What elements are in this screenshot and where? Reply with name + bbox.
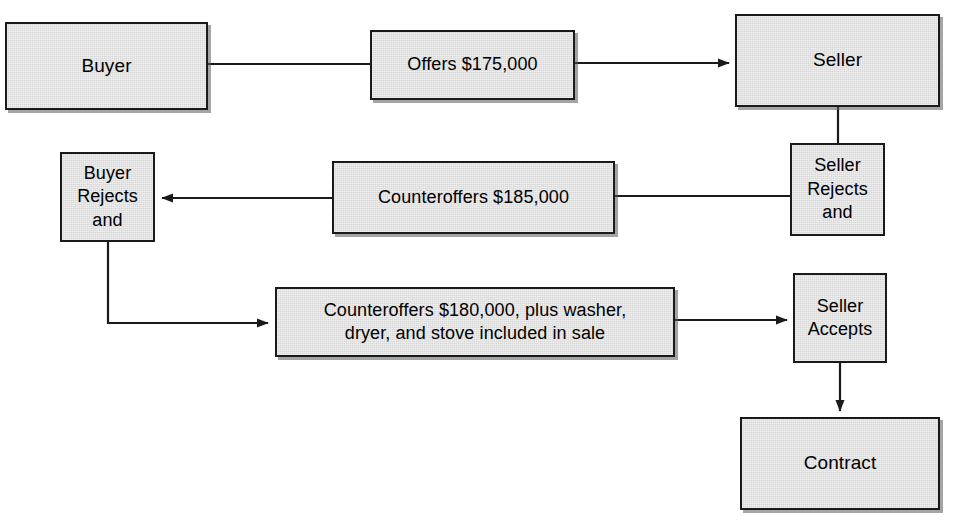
- node-seller-rejects-label: Seller Rejects and: [801, 154, 874, 224]
- node-seller-rejects[interactable]: Seller Rejects and: [790, 143, 885, 236]
- flowchart-canvas: Buyer Offers $175,000 Seller Seller Reje…: [0, 0, 956, 523]
- node-offer-175000[interactable]: Offers $175,000: [370, 30, 575, 100]
- node-buyer-label: Buyer: [75, 54, 137, 79]
- node-contract[interactable]: Contract: [740, 417, 940, 510]
- node-counteroffer-185000[interactable]: Counteroffers $185,000: [332, 161, 615, 234]
- node-buyer-rejects[interactable]: Buyer Rejects and: [60, 152, 155, 242]
- node-counteroffer-180000-label: Counteroffers $180,000, plus washer, dry…: [318, 299, 632, 346]
- node-seller-accepts[interactable]: Seller Accepts: [793, 273, 887, 363]
- node-seller-accepts-label: Seller Accepts: [802, 295, 879, 342]
- node-buyer[interactable]: Buyer: [5, 22, 208, 110]
- node-seller[interactable]: Seller: [735, 14, 940, 107]
- node-contract-label: Contract: [798, 451, 883, 476]
- node-offer-175000-label: Offers $175,000: [401, 53, 543, 76]
- node-counteroffer-185000-label: Counteroffers $185,000: [372, 186, 575, 209]
- node-buyer-rejects-label: Buyer Rejects and: [71, 162, 144, 232]
- node-counteroffer-180000[interactable]: Counteroffers $180,000, plus washer, dry…: [275, 287, 675, 357]
- edge-buyer-rejects-to-counteroffer-180: [108, 241, 268, 323]
- node-seller-label: Seller: [807, 48, 868, 73]
